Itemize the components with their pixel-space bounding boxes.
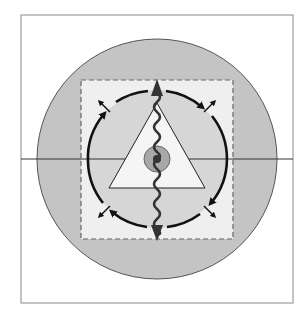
center-dot [153, 155, 161, 163]
diagram [0, 0, 308, 315]
